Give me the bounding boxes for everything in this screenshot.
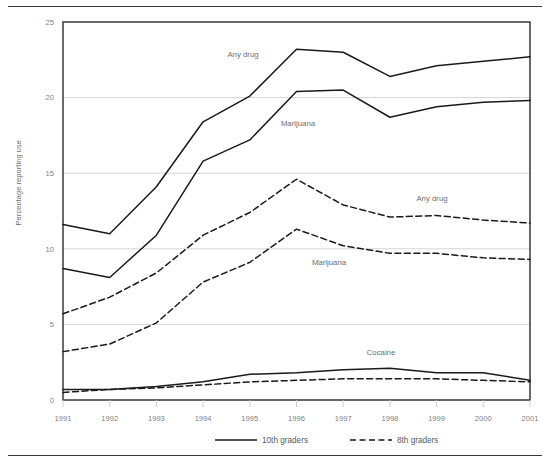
x-tick-labels-group: 1991199219931994199519961997199819992000…: [55, 414, 539, 423]
series-annotations-group: Any drugMarijuanaAny drugMarijuanaCocain…: [227, 50, 447, 357]
series-line-marijuana-8th: [63, 229, 530, 351]
x-tick-label: 1999: [428, 414, 445, 423]
series-annotation: Marijuana: [312, 258, 347, 267]
series-line-any-drug-10th: [63, 49, 530, 233]
series-line-any-drug-8th: [63, 179, 530, 314]
y-tick-label: 0: [50, 396, 54, 405]
series-lines-group: [63, 49, 530, 392]
series-annotation: Any drug: [227, 50, 258, 59]
y-tick-label: 10: [46, 245, 54, 254]
line-chart-plot: 0510152025 19911992199319941995199619971…: [0, 0, 550, 462]
bottom-rule-divider: [8, 455, 542, 456]
y-tick-label: 5: [50, 320, 54, 329]
legend-label: 10th graders: [262, 436, 308, 445]
x-tick-label: 1991: [55, 414, 72, 423]
y-tick-label: 25: [46, 18, 54, 27]
x-tick-label: 1992: [101, 414, 118, 423]
series-line-cocaine-8th: [63, 379, 530, 393]
x-tick-marks-group: [63, 400, 530, 407]
x-tick-label: 1993: [148, 414, 165, 423]
x-tick-label: 1996: [288, 414, 305, 423]
series-line-cocaine-10th: [63, 368, 530, 389]
y-tick-label: 20: [46, 93, 54, 102]
legend-label: 8th graders: [397, 436, 438, 445]
x-tick-label: 2000: [475, 414, 492, 423]
x-tick-label: 1998: [381, 414, 398, 423]
x-tick-label: 1997: [335, 414, 352, 423]
x-tick-label: 1995: [241, 414, 258, 423]
x-tick-label: 1994: [195, 414, 212, 423]
series-annotation: Cocaine: [367, 348, 396, 357]
x-tick-label: 2001: [522, 414, 539, 423]
series-annotation: Marijuana: [281, 119, 316, 128]
y-tick-labels-group: 0510152025: [46, 18, 54, 405]
chart-legend: 10th graders8th graders: [215, 436, 438, 445]
chart-figure: Percentage reporting use 0510152025 1991…: [0, 0, 550, 462]
series-annotation: Any drug: [416, 194, 447, 203]
y-tick-label: 15: [46, 169, 54, 178]
